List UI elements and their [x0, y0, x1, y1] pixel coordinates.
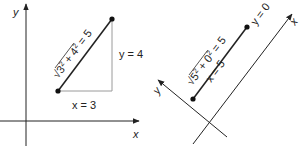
diagram-canvas: y x x = 3 y = 4 √32 + 42 = 5 x y — [0, 0, 306, 149]
left-diagram: y x x = 3 y = 4 √32 + 42 = 5 — [0, 4, 143, 146]
right-diagram: x y x = 5 y = 0 √52 + 02 = 5 — [149, 1, 300, 144]
right-x-axis-label: x — [286, 15, 300, 28]
right-point-d — [244, 24, 249, 29]
left-x-axis-label: x — [132, 128, 139, 140]
right-point-c — [190, 96, 195, 101]
left-point-a — [55, 88, 60, 93]
right-y-axis — [158, 80, 227, 137]
left-leg-x-label: x = 3 — [72, 99, 96, 111]
left-point-b — [109, 16, 114, 21]
right-y-axis-label: y — [149, 83, 163, 97]
left-y-axis-label: y — [12, 6, 20, 18]
right-leg-y-label: y = 0 — [248, 1, 272, 28]
left-leg-y-label: y = 4 — [119, 48, 143, 60]
